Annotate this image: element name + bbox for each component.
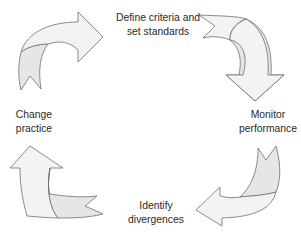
stage-identify-line-1: Identify: [122, 198, 190, 212]
stage-change-label: Change practice: [9, 107, 59, 135]
curved-arrow-right-icon: [19, 12, 103, 90]
cycle-diagram: Define criteria and set standards Monito…: [0, 0, 301, 237]
curved-arrow-down-icon: [199, 15, 284, 101]
stage-change-line-2: practice: [9, 121, 59, 135]
stage-identify-line-2: divergences: [122, 212, 190, 226]
stage-monitor-line-1: Monitor: [238, 107, 297, 121]
stage-define-line-1: Define criteria and: [113, 10, 203, 24]
curved-arrow-up-icon: [10, 146, 103, 218]
curved-arrow-left-icon: [196, 146, 280, 226]
stage-monitor-label: Monitor performance: [238, 107, 297, 135]
stage-define-line-2: set standards: [113, 24, 203, 38]
stage-identify-label: Identify divergences: [122, 198, 190, 226]
stage-change-line-1: Change: [9, 107, 59, 121]
stage-monitor-line-2: performance: [238, 121, 297, 135]
stage-define-label: Define criteria and set standards: [113, 10, 203, 38]
